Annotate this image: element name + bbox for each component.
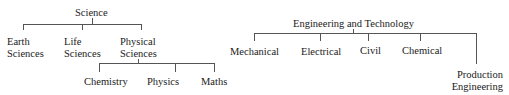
node-electrical: Electrical xyxy=(301,46,341,57)
connector-line xyxy=(254,33,255,41)
connector-line xyxy=(82,24,83,30)
connector-line xyxy=(320,33,321,41)
connector-line xyxy=(420,33,421,41)
connector-line xyxy=(141,24,142,30)
connector-line xyxy=(99,63,215,64)
connector-line xyxy=(214,63,215,72)
node-civil: Civil xyxy=(360,45,381,56)
node-maths: Maths xyxy=(201,76,227,87)
node-production-engineering: Production Engineering xyxy=(452,69,503,92)
node-chemistry: Chemistry xyxy=(84,76,128,87)
connector-line xyxy=(23,24,24,30)
connector-line xyxy=(99,63,100,72)
connector-line xyxy=(254,33,477,34)
connector-line xyxy=(368,33,369,41)
node-chemical: Chemical xyxy=(402,45,442,56)
connector-line xyxy=(175,63,176,72)
node-physics: Physics xyxy=(147,76,179,87)
node-physical-sciences: Physical Sciences xyxy=(120,36,157,59)
node-engineering-and-technology: Engineering and Technology xyxy=(293,18,414,29)
node-mechanical: Mechanical xyxy=(230,46,279,57)
node-life-sciences: Life Sciences xyxy=(64,36,101,59)
connector-line xyxy=(476,33,477,64)
node-science: Science xyxy=(75,7,108,18)
node-earth-sciences: Earth Sciences xyxy=(7,36,44,59)
